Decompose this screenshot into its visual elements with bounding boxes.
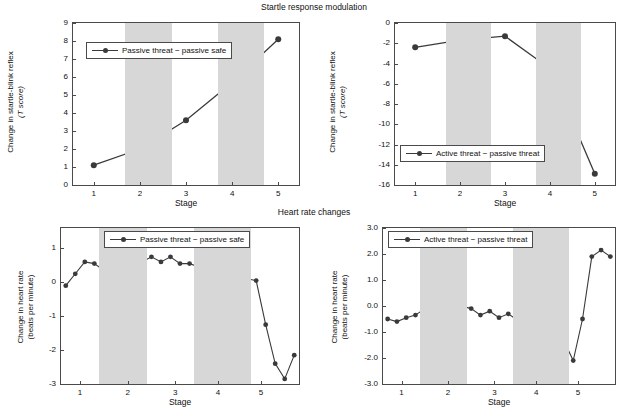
chart-heartrate-active: Change in heart rate(beats per minute) A… [314,219,628,415]
chart3-legend: Passive threat − passive safe [104,231,250,248]
x-tick-label: 5 [251,388,271,397]
chart-startle-active: Change in startle-blink reflex(T score) … [314,14,628,210]
y-tick-label: 0 [360,18,390,27]
x-tick-label: 1 [392,388,412,397]
x-tick-mark [578,381,579,385]
chart3-band-2 [194,228,251,384]
chart1-ylabel: Change in startle-blink reflex(T score) [6,42,26,162]
chart4-band-2 [513,228,569,384]
chart4-legend-label: Active threat − passive threat [424,235,527,244]
bottom-panel-title: Heart rate changes [0,207,628,217]
y-tick-label: 2.0 [348,249,378,258]
y-tick-label: -2 [26,345,56,354]
chart-heartrate-passive: Change in heart rate(beats per minute) P… [0,219,314,415]
y-tick-label: -6 [360,79,390,88]
x-tick-label: 2 [118,388,138,397]
y-tick-mark [72,23,76,24]
y-tick-mark [394,43,398,44]
y-tick-mark [382,384,386,385]
x-tick-mark [278,182,279,186]
chart4-band-1 [420,228,466,384]
y-tick-mark [60,384,64,385]
x-tick-label: 4 [208,388,228,397]
y-tick-mark [394,165,398,166]
y-tick-mark [394,124,398,125]
x-tick-mark [175,381,176,385]
x-tick-label: 4 [222,189,242,198]
y-tick-label: 6 [38,72,68,81]
y-tick-label: -1 [26,311,56,320]
y-tick-mark [382,254,386,255]
chart1-legend-label: Passive threat − passive safe [122,46,226,55]
y-tick-label: -1.0 [348,327,378,336]
y-tick-label: 9 [38,18,68,27]
y-tick-mark [60,316,64,317]
y-tick-mark [72,185,76,186]
y-tick-mark [72,77,76,78]
y-tick-label: -10 [360,119,390,128]
y-tick-mark [72,113,76,114]
y-tick-label: -14 [360,160,390,169]
x-tick-mark [128,381,129,385]
chart-startle-passive: Change in startle-blink reflex(T score) … [0,14,314,210]
x-tick-label: 2 [438,388,458,397]
chart3-series [61,228,299,384]
y-tick-label: 0 [38,180,68,189]
x-tick-mark [186,182,187,186]
chart3-ylabel: Change in heart rate(beats per minute) [16,257,36,357]
x-tick-mark [494,381,495,385]
y-tick-label: 0 [26,277,56,286]
x-tick-mark [460,182,461,186]
chart3-plot-area [60,227,300,385]
x-tick-mark [80,381,81,385]
x-tick-label: 5 [268,189,288,198]
x-tick-mark [218,381,219,385]
x-tick-label: 4 [540,189,560,198]
y-tick-mark [394,84,398,85]
x-tick-label: 5 [585,189,605,198]
y-tick-label: 1 [38,162,68,171]
y-tick-label: 3.0 [348,223,378,232]
y-tick-label: -3 [26,379,56,388]
y-tick-label: -2 [360,38,390,47]
chart4-plot-area [382,227,616,385]
x-tick-label: 3 [176,189,196,198]
y-tick-label: -2.0 [348,353,378,362]
y-tick-mark [60,248,64,249]
y-tick-mark [394,23,398,24]
y-tick-label: 4 [38,108,68,117]
x-tick-label: 4 [526,388,546,397]
x-tick-label: 1 [405,189,425,198]
y-tick-label: -8 [360,99,390,108]
x-tick-mark [140,182,141,186]
chart3-band-1 [99,228,147,384]
y-tick-label: -4 [360,59,390,68]
y-tick-label: -16 [360,180,390,189]
x-tick-label: 1 [84,189,104,198]
chart3-xlabel: Stage [60,397,300,407]
x-tick-label: 3 [484,388,504,397]
x-tick-label: 3 [165,388,185,397]
y-tick-label: 2 [38,144,68,153]
y-tick-mark [394,104,398,105]
x-tick-mark [550,182,551,186]
chart4-xlabel: Stage [382,397,616,407]
y-tick-mark [382,358,386,359]
y-tick-label: -12 [360,140,390,149]
chart2-legend-label: Active threat − passive threat [436,149,539,158]
y-tick-label: 5 [38,90,68,99]
x-tick-mark [448,381,449,385]
chart4-ylabel: Change in heart rate(beats per minute) [330,257,350,357]
y-tick-mark [394,64,398,65]
x-tick-mark [402,381,403,385]
x-tick-mark [94,182,95,186]
y-tick-mark [60,282,64,283]
x-tick-mark [261,381,262,385]
x-tick-label: 5 [568,388,588,397]
y-tick-mark [394,145,398,146]
chart3-legend-sample [110,236,136,244]
y-tick-mark [72,167,76,168]
y-tick-mark [72,131,76,132]
top-panel-title: Startle response modulation [0,2,628,12]
y-tick-label: 1.0 [348,275,378,284]
